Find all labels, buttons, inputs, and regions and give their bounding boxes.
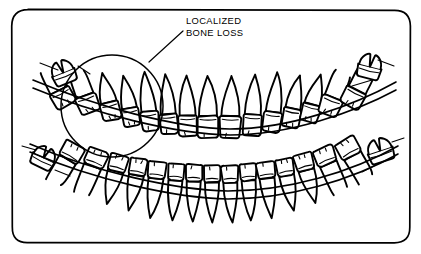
tooth-crown-l9 — [221, 165, 239, 183]
tooth-crown-l4 — [128, 157, 148, 177]
tooth-crown-u12 — [281, 107, 302, 129]
tooth-crown-l10 — [239, 163, 257, 182]
dental-diagram-svg: LOCALIZED BONE LOSS — [0, 0, 421, 254]
localized-bone-loss-label-line2: BONE LOSS — [186, 27, 243, 38]
tooth-crown-l11 — [256, 161, 277, 179]
tooth-crown-l8 — [204, 165, 221, 182]
tooth-crown-l5 — [147, 160, 167, 179]
tooth-crown-u4 — [121, 107, 141, 128]
tooth-crown-l6 — [167, 163, 184, 181]
dental-illustration-figure: LOCALIZED BONE LOSS — [0, 0, 421, 254]
tooth-crown-l7 — [185, 164, 203, 182]
localized-bone-loss-label-line1: LOCALIZED — [186, 15, 241, 26]
tooth-crown-l12 — [275, 157, 296, 177]
